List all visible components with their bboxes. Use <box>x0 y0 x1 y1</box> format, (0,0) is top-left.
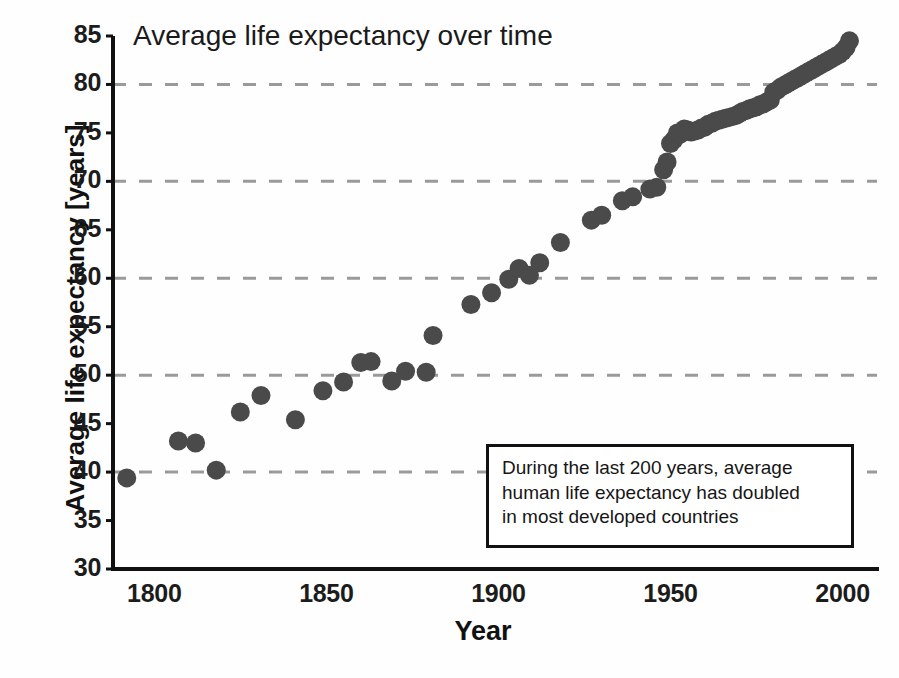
y-tick-label: 40 <box>51 456 101 485</box>
y-tick-label: 60 <box>51 262 101 291</box>
x-tick-label: 1950 <box>626 579 716 608</box>
data-point <box>396 362 415 381</box>
data-point <box>169 432 188 451</box>
data-point <box>840 31 859 50</box>
data-point <box>207 461 226 480</box>
annotation-callout: During the last 200 years, average human… <box>486 444 854 548</box>
x-tick-label: 1900 <box>453 579 543 608</box>
data-point <box>417 363 436 382</box>
data-point <box>117 468 136 487</box>
y-tick-label: 35 <box>51 505 101 534</box>
data-point <box>623 187 642 206</box>
x-tick-label: 2000 <box>798 579 888 608</box>
y-tick-label: 85 <box>51 20 101 49</box>
data-point <box>251 386 270 405</box>
gridlines <box>113 84 877 472</box>
data-point <box>334 372 353 391</box>
annotation-text: During the last 200 years, average human… <box>502 456 840 530</box>
y-tick-label: 45 <box>51 408 101 437</box>
data-point <box>658 152 677 171</box>
data-point <box>186 434 205 453</box>
data-point <box>461 295 480 314</box>
y-tick-label: 65 <box>51 214 101 243</box>
data-point <box>592 206 611 225</box>
chart-title: Average life expectancy over time <box>133 20 553 52</box>
data-point <box>286 410 305 429</box>
data-point-group <box>117 31 859 487</box>
y-tick-label: 50 <box>51 359 101 388</box>
data-point <box>551 233 570 252</box>
data-point <box>424 326 443 345</box>
y-tick-label: 75 <box>51 117 101 146</box>
chart-figure: Average life expectancy over time Averag… <box>0 0 899 678</box>
y-tick-label: 70 <box>51 165 101 194</box>
y-tick-label: 30 <box>51 553 101 582</box>
y-tick-label: 55 <box>51 311 101 340</box>
data-point <box>231 403 250 422</box>
y-tick-label: 80 <box>51 68 101 97</box>
data-point <box>530 253 549 272</box>
x-tick-label: 1800 <box>109 579 199 608</box>
data-point <box>482 283 501 302</box>
data-point <box>362 352 381 371</box>
plot-canvas <box>0 0 899 678</box>
x-axis-title: Year <box>113 616 853 647</box>
x-tick-label: 1850 <box>281 579 371 608</box>
data-point <box>647 178 666 197</box>
data-point <box>313 381 332 400</box>
